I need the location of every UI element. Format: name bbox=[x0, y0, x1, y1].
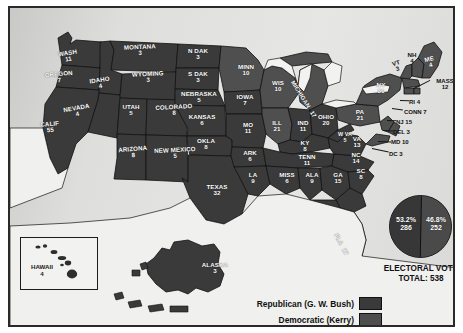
island-maui bbox=[65, 261, 71, 266]
legend-label-democratic: Democratic (Kerry) bbox=[279, 315, 354, 325]
island-niihau bbox=[35, 245, 40, 248]
state-okla[interactable] bbox=[187, 136, 232, 156]
aleutian-d bbox=[170, 306, 188, 312]
electoral-vote-caption: ELECTORAL VOTE TOTAL: 538 bbox=[377, 264, 453, 284]
map-legend: Republican (G. W. Bush) Democratic (Kerr… bbox=[210, 297, 382, 325]
state-conn[interactable] bbox=[404, 88, 414, 94]
electoral-map-figure: .rep{fill:#3a3a3a;stroke:#111;stroke-wid… bbox=[0, 0, 463, 333]
label-hawaii: HAWAII4 bbox=[25, 264, 59, 277]
state-wyoming[interactable] bbox=[120, 72, 176, 101]
state-newmexico[interactable] bbox=[146, 135, 188, 182]
callout-nj: NJ 15 bbox=[396, 119, 412, 125]
legend-swatch-democratic bbox=[359, 313, 382, 325]
state-nebraska[interactable] bbox=[175, 89, 225, 106]
aleutian-c bbox=[148, 304, 164, 312]
map-canvas: .rep{fill:#3a3a3a;stroke:#111;stroke-wid… bbox=[10, 8, 453, 325]
state-pa[interactable] bbox=[336, 104, 380, 126]
legend-label-republican: Republican (G. W. Bush) bbox=[257, 299, 354, 309]
state-ri[interactable] bbox=[414, 88, 420, 94]
island-kauai bbox=[43, 244, 47, 248]
callout-dc: DC 3 bbox=[389, 151, 403, 157]
state-sdak[interactable] bbox=[175, 68, 219, 90]
state-oregon[interactable] bbox=[56, 65, 100, 90]
pie-label-republican: 53.2%286 bbox=[391, 216, 421, 232]
state-ark[interactable] bbox=[231, 147, 266, 167]
state-iowa[interactable] bbox=[224, 90, 262, 114]
callout-del: DEL 3 bbox=[393, 129, 410, 135]
state-miss[interactable] bbox=[266, 166, 300, 194]
island-hawaii bbox=[67, 270, 77, 279]
aleutian-a bbox=[114, 292, 124, 300]
state-ndak[interactable] bbox=[176, 44, 221, 68]
legend-swatch-republican bbox=[359, 297, 382, 310]
legend-row-democratic: Democratic (Kerry) bbox=[210, 313, 382, 325]
pie-label-democratic: 46.8%252 bbox=[421, 216, 451, 232]
aleutian-b bbox=[128, 300, 142, 308]
state-ala[interactable] bbox=[298, 168, 322, 200]
state-utah[interactable] bbox=[117, 98, 147, 135]
callout-ri: RI 4 bbox=[409, 99, 420, 105]
callout-mass: MASS12 bbox=[431, 78, 453, 90]
state-montana[interactable] bbox=[110, 41, 178, 72]
state-ill[interactable] bbox=[262, 108, 292, 144]
callout-md: MD 10 bbox=[391, 139, 409, 145]
state-arizona[interactable] bbox=[114, 134, 146, 180]
alaska-island-b bbox=[132, 270, 140, 276]
state-mo[interactable] bbox=[226, 114, 266, 148]
state-minn[interactable] bbox=[219, 46, 264, 92]
island-molokai bbox=[58, 256, 66, 260]
hawaii-inset-box: HAWAII4 bbox=[20, 237, 98, 290]
island-oahu bbox=[51, 250, 58, 254]
callout-conn: CONN 7 bbox=[404, 109, 427, 115]
alaska-mainland[interactable] bbox=[146, 240, 224, 294]
state-wash[interactable] bbox=[58, 32, 102, 68]
legend-row-republican: Republican (G. W. Bush) bbox=[210, 297, 382, 310]
map-frame: .rep{fill:#3a3a3a;stroke:#111;stroke-wid… bbox=[8, 6, 455, 327]
island-lanai bbox=[60, 264, 64, 266]
